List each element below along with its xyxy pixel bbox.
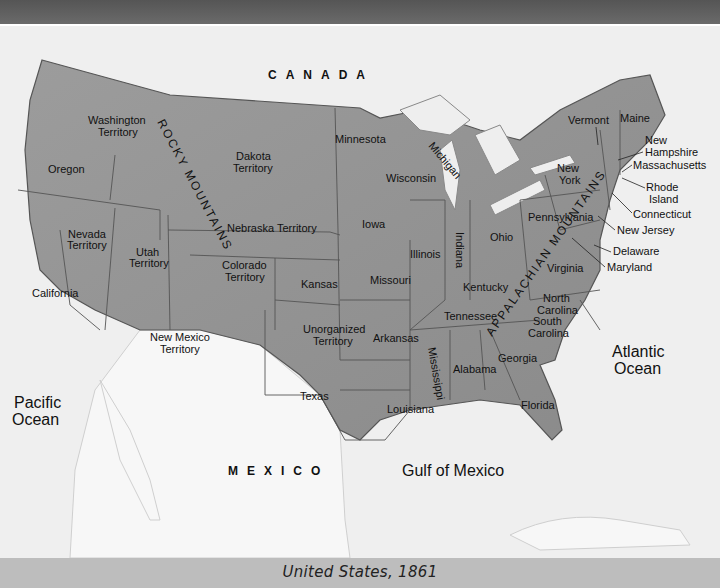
label-louisiana: Louisiana <box>387 403 435 415</box>
label-maine: Maine <box>620 112 650 124</box>
label-pacific-ocean-1: Pacific <box>14 394 61 411</box>
label-rhode-island-1: Rhode <box>646 181 678 193</box>
label-minnesota: Minnesota <box>335 133 387 145</box>
label-dakota-1: Dakota <box>236 150 272 162</box>
label-oregon: Oregon <box>48 163 85 175</box>
label-nebraska: Nebraska Territory <box>227 222 317 234</box>
label-massachusetts: Massachusetts <box>633 159 707 171</box>
label-georgia: Georgia <box>498 352 538 364</box>
label-dakota-2: Territory <box>233 162 273 174</box>
label-new-mexico-2: Territory <box>160 343 200 355</box>
label-north-carolina-1: North <box>543 292 570 304</box>
label-missouri: Missouri <box>370 274 411 286</box>
label-washington-2: Territory <box>98 126 138 138</box>
label-south-carolina-2: Carolina <box>528 327 570 339</box>
label-virginia: Virginia <box>547 262 584 274</box>
label-indiana: Indiana <box>454 232 466 269</box>
label-unorganized-1: Unorganized <box>303 323 365 335</box>
label-new-york-2: York <box>559 174 581 186</box>
label-colorado-1: Colorado <box>222 259 267 271</box>
label-new-mexico-1: New Mexico <box>150 331 210 343</box>
label-washington-1: Washington <box>88 114 146 126</box>
label-nevada-2: Territory <box>67 239 107 251</box>
label-illinois: Illinois <box>410 248 441 260</box>
label-california: California <box>32 287 79 299</box>
label-unorganized-2: Territory <box>313 335 353 347</box>
label-alabama: Alabama <box>453 363 497 375</box>
label-kentucky: Kentucky <box>463 281 509 293</box>
label-connecticut: Connecticut <box>633 208 691 220</box>
label-canada: CANADA <box>268 68 374 82</box>
label-iowa: Iowa <box>362 218 386 230</box>
map-caption-bar: United States, 1861 <box>0 558 720 588</box>
us-1861-map: CANADA MEXICO Pacific Ocean Atlantic Oce… <box>0 26 720 558</box>
label-ohio: Ohio <box>490 231 513 243</box>
label-colorado-2: Territory <box>225 271 265 283</box>
label-new-hampshire-2: Hampshire <box>645 146 698 158</box>
top-banner <box>0 0 720 24</box>
label-pennsylvania: Pennsylvania <box>528 211 594 223</box>
label-kansas: Kansas <box>301 278 338 290</box>
label-north-carolina-2: Carolina <box>537 304 579 316</box>
label-new-york-1: New <box>557 162 579 174</box>
label-south-carolina-1: South <box>533 315 562 327</box>
label-tennessee: Tennessee <box>444 310 497 322</box>
label-texas: Texas <box>300 390 329 402</box>
label-atlantic-ocean-2: Ocean <box>614 360 661 377</box>
map-title: United States, 1861 <box>0 563 720 581</box>
label-mexico: MEXICO <box>228 464 329 478</box>
label-utah-2: Territory <box>129 257 169 269</box>
label-delaware: Delaware <box>613 245 659 257</box>
label-gulf-of-mexico: Gulf of Mexico <box>402 462 504 479</box>
label-wisconsin: Wisconsin <box>386 172 436 184</box>
map-canvas: CANADA MEXICO Pacific Ocean Atlantic Oce… <box>0 26 720 558</box>
label-florida: Florida <box>521 399 556 411</box>
label-vermont: Vermont <box>568 114 609 126</box>
label-arkansas: Arkansas <box>373 332 419 344</box>
label-maryland: Maryland <box>607 261 652 273</box>
label-new-hampshire-1: New <box>645 134 667 146</box>
label-pacific-ocean-2: Ocean <box>12 411 59 428</box>
label-new-jersey: New Jersey <box>617 224 675 236</box>
label-atlantic-ocean-1: Atlantic <box>612 343 664 360</box>
label-rhode-island-2: Island <box>649 193 678 205</box>
